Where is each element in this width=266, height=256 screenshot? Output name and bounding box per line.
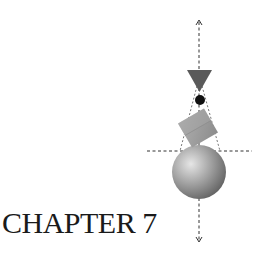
tilted-cube [178, 108, 218, 147]
shaded-sphere [172, 145, 226, 199]
inverted-triangle [187, 70, 212, 92]
small-black-circle [195, 95, 205, 105]
chapter-title: CHAPTER 7 [2, 208, 157, 238]
